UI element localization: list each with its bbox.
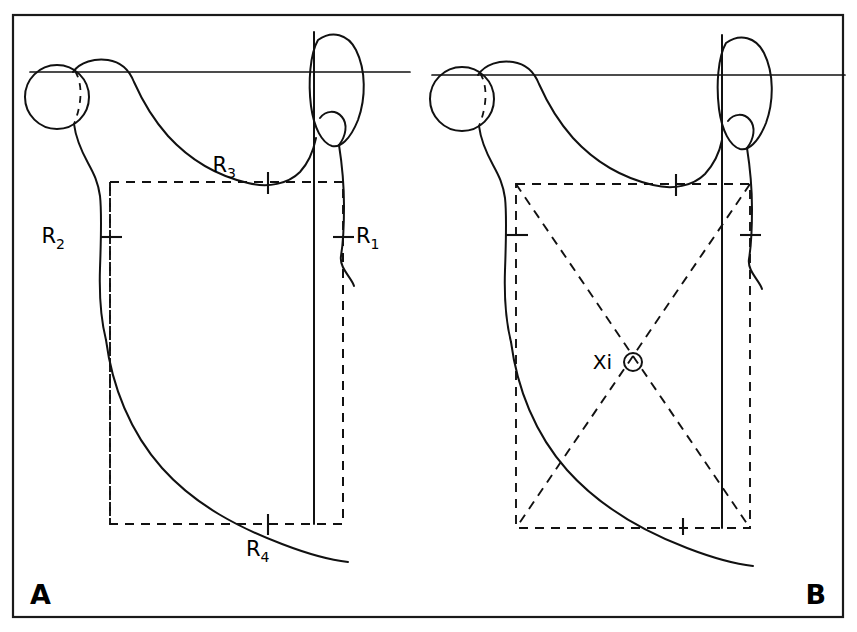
label-xi: Xi bbox=[593, 350, 612, 374]
diagram-canvas: R3 R2 R1 R4 A bbox=[0, 0, 857, 632]
label-r3-sub: 3 bbox=[227, 165, 236, 181]
label-r3-base: R bbox=[212, 153, 227, 177]
label-r1-base: R bbox=[356, 224, 371, 248]
label-r2-sub: 2 bbox=[56, 236, 65, 252]
figure-root: R3 R2 R1 R4 A bbox=[0, 0, 857, 632]
label-r2-base: R bbox=[41, 224, 56, 248]
panel-letter-a: A bbox=[30, 579, 51, 610]
label-r1-sub: 1 bbox=[371, 236, 380, 252]
panel-letter-b: B bbox=[805, 579, 826, 610]
label-r4-base: R bbox=[246, 537, 261, 561]
label-r4-sub: 4 bbox=[261, 549, 270, 565]
